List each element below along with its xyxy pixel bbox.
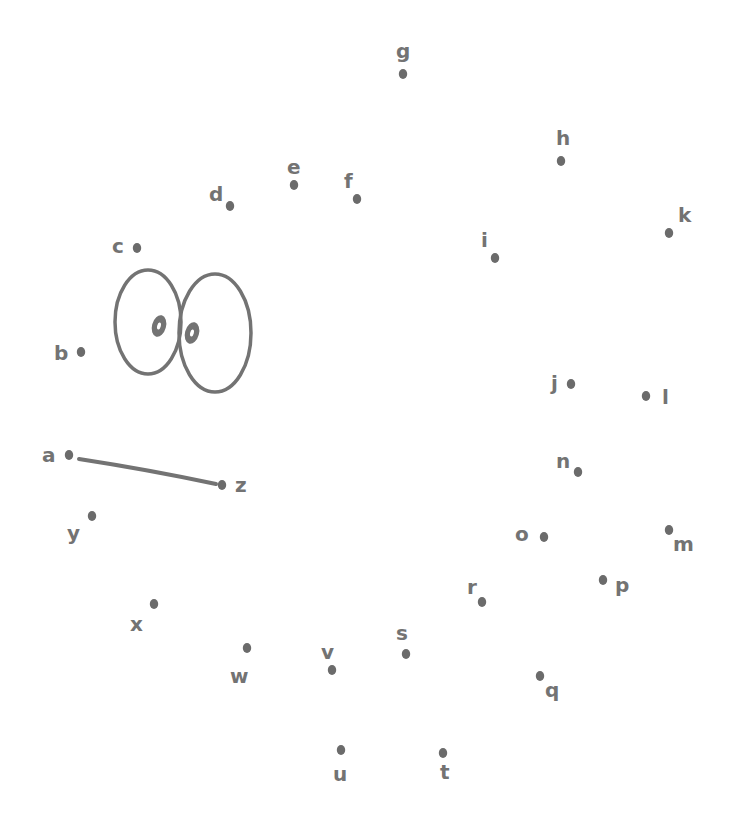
- dot-label: e: [287, 155, 301, 179]
- dot-point[interactable]: [226, 201, 234, 211]
- dot-point[interactable]: [540, 532, 548, 542]
- connected-line-a-to-z: [79, 459, 216, 484]
- dot-z[interactable]: z: [218, 473, 247, 497]
- dot-point[interactable]: [567, 379, 575, 389]
- dot-label: j: [550, 371, 558, 395]
- dot-label: m: [673, 532, 694, 556]
- dot-point[interactable]: [478, 597, 486, 607]
- dot-label: t: [440, 760, 450, 784]
- dot-t[interactable]: t: [439, 748, 450, 784]
- dot-e[interactable]: e: [287, 155, 301, 190]
- dot-m[interactable]: m: [665, 525, 694, 556]
- left-eye-outline: [115, 270, 181, 374]
- dot-label: d: [209, 182, 223, 206]
- dot-l[interactable]: l: [642, 385, 669, 409]
- dot-n[interactable]: n: [556, 449, 582, 477]
- left-eye: [115, 270, 181, 374]
- drawn-line: [79, 459, 216, 484]
- dot-x[interactable]: x: [130, 599, 158, 636]
- dot-label: k: [678, 203, 692, 227]
- eyes-drawing: [115, 270, 251, 392]
- dot-point[interactable]: [150, 599, 158, 609]
- dot-label: l: [662, 385, 669, 409]
- dot-to-dot-worksheet: abcdefghijklmnopqrstuvwxyz: [0, 0, 732, 821]
- dot-label: x: [130, 612, 143, 636]
- dot-point[interactable]: [337, 745, 345, 755]
- dot-label: r: [467, 575, 477, 599]
- dot-i[interactable]: i: [481, 228, 499, 263]
- dot-w[interactable]: w: [230, 643, 251, 688]
- dot-point[interactable]: [243, 643, 251, 653]
- dot-point[interactable]: [88, 511, 96, 521]
- dot-d[interactable]: d: [209, 182, 234, 211]
- dot-j[interactable]: j: [550, 371, 575, 395]
- dot-r[interactable]: r: [467, 575, 486, 607]
- dot-label: w: [230, 664, 248, 688]
- dot-point[interactable]: [218, 480, 226, 490]
- dot-label: i: [481, 228, 488, 252]
- dot-point[interactable]: [399, 69, 407, 79]
- dot-q[interactable]: q: [536, 671, 560, 702]
- dot-label: y: [67, 521, 80, 545]
- dot-label: a: [42, 443, 56, 467]
- dot-point[interactable]: [65, 450, 73, 460]
- dot-y[interactable]: y: [67, 511, 96, 545]
- dot-o[interactable]: o: [515, 522, 548, 546]
- dot-point[interactable]: [599, 575, 607, 585]
- dot-k[interactable]: k: [665, 203, 692, 238]
- dot-label: c: [112, 234, 124, 258]
- dot-label: s: [396, 621, 408, 645]
- dot-g[interactable]: g: [396, 39, 410, 79]
- dot-point[interactable]: [574, 467, 582, 477]
- dot-point[interactable]: [665, 228, 673, 238]
- dot-label: v: [321, 640, 334, 664]
- dot-point[interactable]: [328, 665, 336, 675]
- dot-point[interactable]: [557, 156, 565, 166]
- dot-label: g: [396, 39, 410, 63]
- dot-point[interactable]: [133, 243, 141, 253]
- dot-point[interactable]: [402, 649, 410, 659]
- dot-label: n: [556, 449, 570, 473]
- dot-point[interactable]: [353, 194, 361, 204]
- dot-point[interactable]: [536, 671, 544, 681]
- dot-v[interactable]: v: [321, 640, 336, 675]
- dot-label: u: [333, 762, 347, 786]
- dot-label: z: [235, 473, 247, 497]
- dot-h[interactable]: h: [556, 126, 570, 166]
- dot-a[interactable]: a: [42, 443, 73, 467]
- dot-label: b: [54, 341, 68, 365]
- dot-c[interactable]: c: [112, 234, 141, 258]
- dots-group: abcdefghijklmnopqrstuvwxyz: [42, 39, 694, 786]
- dot-b[interactable]: b: [54, 341, 85, 365]
- dot-u[interactable]: u: [333, 745, 347, 786]
- dot-label: o: [515, 522, 529, 546]
- dot-point[interactable]: [665, 525, 673, 535]
- dot-label: h: [556, 126, 570, 150]
- dot-label: f: [344, 169, 353, 193]
- dot-p[interactable]: p: [599, 573, 630, 597]
- dot-point[interactable]: [290, 180, 298, 190]
- dot-point[interactable]: [491, 253, 499, 263]
- dot-point[interactable]: [439, 748, 447, 758]
- dot-point[interactable]: [77, 347, 85, 357]
- dot-point[interactable]: [642, 391, 650, 401]
- dot-s[interactable]: s: [396, 621, 410, 659]
- dot-f[interactable]: f: [344, 169, 361, 204]
- dot-label: p: [615, 573, 629, 597]
- right-eye: [179, 274, 251, 392]
- dot-label: q: [545, 678, 559, 702]
